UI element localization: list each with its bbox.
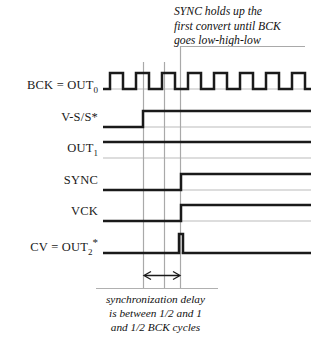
delay-arrow <box>144 272 180 280</box>
waveform-canvas <box>0 0 327 344</box>
timing-diagram: BCK = OUT0 V-S/S* OUT1 SYNC VCK CV = OUT… <box>0 0 327 344</box>
baseline-group <box>103 89 311 253</box>
waveform-sync <box>103 174 311 190</box>
waveform-vck <box>103 205 311 221</box>
waveform-vss <box>103 111 311 127</box>
waveform-cv <box>103 234 311 253</box>
waveform-bck <box>103 73 311 89</box>
